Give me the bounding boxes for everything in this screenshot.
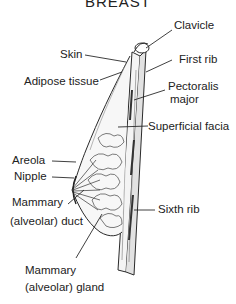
label-mammary-gland-line2: (alveolar) gland bbox=[25, 281, 104, 294]
label-pectoralis-line2: major bbox=[170, 93, 199, 106]
leader-nipple bbox=[52, 177, 74, 178]
leader-skin bbox=[85, 55, 126, 62]
label-clavicle: Clavicle bbox=[174, 19, 214, 32]
leader-clavicle bbox=[146, 30, 172, 48]
breast-anatomy-illustration bbox=[0, 0, 236, 304]
label-superficial-fascia: Superficial facia bbox=[148, 120, 229, 133]
label-mammary-duct-line1: Mammary bbox=[12, 196, 63, 209]
label-pectoralis-line1: Pectoralis bbox=[168, 80, 219, 93]
label-skin: Skin bbox=[60, 48, 82, 61]
label-mammary-duct-line2: (alveolar) duct bbox=[10, 215, 83, 228]
label-adipose-tissue: Adipose tissue bbox=[24, 75, 99, 88]
label-nipple: Nipple bbox=[14, 170, 47, 183]
label-mammary-gland-line1: Mammary bbox=[25, 264, 76, 277]
leader-first-rib bbox=[146, 60, 172, 72]
label-areola: Areola bbox=[12, 154, 45, 167]
label-first-rib: First rib bbox=[179, 53, 217, 66]
leader-areola bbox=[52, 161, 76, 162]
label-sixth-rib: Sixth rib bbox=[158, 203, 200, 216]
